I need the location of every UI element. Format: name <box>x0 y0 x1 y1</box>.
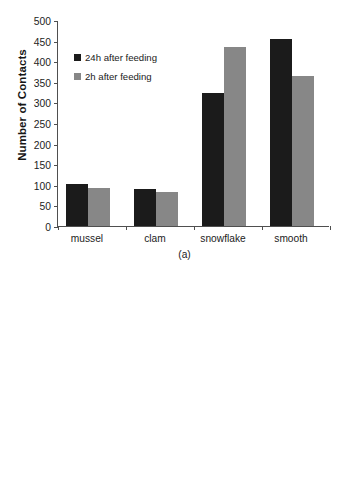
bar-smooth-2h <box>292 76 314 226</box>
y-axis-tick-label: 150 <box>34 160 51 171</box>
y-axis-title-a: Number of Contacts <box>16 10 28 200</box>
y-axis-tick <box>54 165 58 166</box>
y-axis-tick-label: 200 <box>34 139 51 150</box>
y-axis-tick-label: 0 <box>45 222 51 233</box>
x-axis-label-mussel: mussel <box>71 233 103 244</box>
x-axis-label-smooth: smooth <box>274 233 307 244</box>
figure-two-panel-bar-charts: Number of Contacts 050100150200250300350… <box>0 0 339 484</box>
y-axis-tick <box>54 21 58 22</box>
y-axis-tick-label: 450 <box>34 36 51 47</box>
y-axis-tick <box>54 103 58 104</box>
y-axis-tick-label: 300 <box>34 98 51 109</box>
x-axis-label-snowflake: snowflake <box>200 233 245 244</box>
bar-smooth-24h <box>270 39 292 226</box>
y-axis-tick-label: 350 <box>34 77 51 88</box>
legend-swatch-icon <box>74 73 81 80</box>
panel-b: median interaction time (s) 010020030040… <box>0 262 339 484</box>
y-axis-tick-label: 50 <box>40 201 51 212</box>
bar-clam-2h <box>156 192 178 226</box>
y-axis-tick <box>54 145 58 146</box>
x-axis-tick <box>330 226 331 230</box>
x-axis-tick <box>262 226 263 230</box>
y-axis-tick-label: 250 <box>34 119 51 130</box>
y-axis-tick <box>54 186 58 187</box>
bar-snowflake-24h <box>202 93 224 226</box>
y-axis-tick-label: 400 <box>34 57 51 68</box>
y-axis-tick-label: 100 <box>34 180 51 191</box>
y-axis-tick <box>54 83 58 84</box>
x-axis-tick <box>126 226 127 230</box>
bar-mussel-2h <box>88 188 110 226</box>
legend-label: 2h after feeding <box>85 71 152 82</box>
y-axis-tick <box>54 42 58 43</box>
bar-mussel-24h <box>66 184 88 226</box>
legend-a: 24h after feeding 2h after feeding <box>74 52 157 90</box>
legend-swatch-icon <box>74 54 81 61</box>
bar-clam-24h <box>134 189 156 226</box>
legend-entry: 2h after feeding <box>74 71 157 82</box>
legend-label: 24h after feeding <box>85 52 157 63</box>
legend-entry: 24h after feeding <box>74 52 157 63</box>
x-axis-tick <box>194 226 195 230</box>
panel-caption-a: (a) <box>15 249 339 260</box>
y-axis-tick <box>54 124 58 125</box>
x-axis-label-clam: clam <box>144 233 166 244</box>
panel-a: Number of Contacts 050100150200250300350… <box>0 0 339 262</box>
x-axis-tick <box>58 226 59 230</box>
bar-snowflake-2h <box>224 47 246 226</box>
y-axis-tick <box>54 62 58 63</box>
y-axis-tick-label: 500 <box>34 16 51 27</box>
y-axis-tick <box>54 206 58 207</box>
